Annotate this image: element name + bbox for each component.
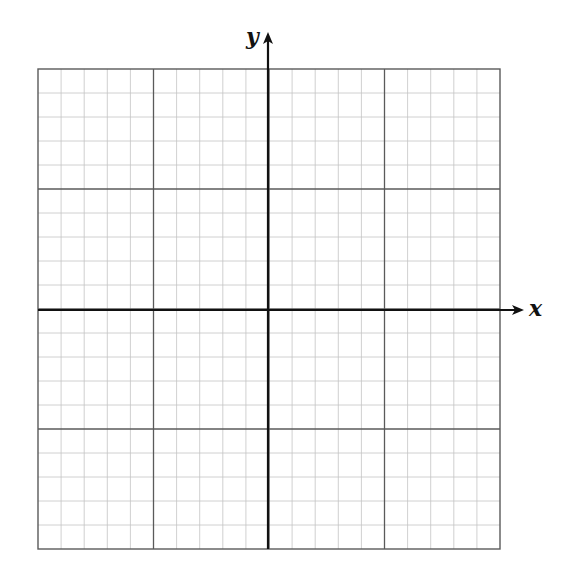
axes bbox=[38, 32, 524, 549]
x-axis-label: x bbox=[528, 295, 543, 321]
coordinate-plane: x y bbox=[0, 0, 567, 574]
y-axis-label: y bbox=[245, 23, 261, 49]
